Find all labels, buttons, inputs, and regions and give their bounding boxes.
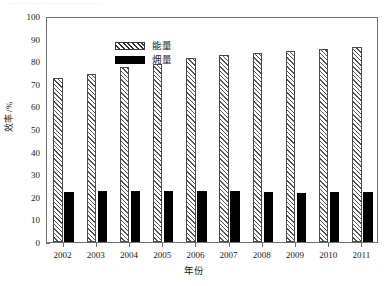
bar-㶲量-2005: [164, 191, 174, 242]
bar-㶲量-2009: [297, 193, 307, 242]
cropped-caption-remnant: ———————————————: [6, 0, 156, 7]
bar-能量-2004: [120, 67, 130, 242]
bar-㶲量-2011: [363, 192, 373, 242]
y-axis-tick-label: 20: [0, 193, 40, 202]
chart-figure: ——————————————— 0102030405060708090100 效…: [0, 0, 388, 286]
x-axis-title: 年份: [0, 266, 388, 277]
bar-能量-2010: [319, 49, 329, 242]
y-axis-tick-mark: [46, 243, 50, 244]
x-axis-tick-label: 2011: [341, 250, 381, 260]
bar-能量-2005: [153, 64, 163, 242]
plot-area: 能量 㶲量: [46, 17, 378, 243]
y-axis-tick-label: 100: [0, 13, 40, 22]
y-axis-tick-label: 90: [0, 35, 40, 44]
legend-label-energy: 能量: [152, 41, 172, 51]
x-axis-tick-mark: [96, 243, 97, 247]
bar-㶲量-2004: [131, 191, 141, 242]
bar-能量-2006: [186, 58, 196, 242]
legend-item-energy: 能量: [115, 39, 201, 53]
solid-black-swatch-icon: [115, 56, 145, 64]
x-axis-tick-mark: [328, 243, 329, 247]
chart-legend: 能量 㶲量: [115, 39, 201, 67]
x-axis-tick-mark: [361, 243, 362, 247]
x-axis-tick-mark: [295, 243, 296, 247]
x-axis-tick-mark: [195, 243, 196, 247]
y-axis-title: 效率 /%: [4, 87, 14, 147]
y-axis-tick-label: 10: [0, 216, 40, 225]
bar-能量-2008: [253, 53, 263, 242]
y-axis-tick-label: 30: [0, 171, 40, 180]
y-axis-tick-label: 80: [0, 58, 40, 67]
bar-能量-2007: [219, 55, 229, 242]
bar-㶲量-2003: [98, 191, 108, 242]
bar-能量-2011: [352, 47, 362, 242]
legend-label-exergy: 㶲量: [152, 55, 172, 65]
bar-㶲量-2007: [230, 191, 240, 242]
bar-能量-2009: [286, 51, 296, 242]
bar-㶲量-2002: [64, 192, 74, 242]
bar-㶲量-2006: [197, 191, 207, 242]
x-axis-tick-mark: [63, 243, 64, 247]
bar-能量-2003: [87, 74, 97, 242]
bar-㶲量-2008: [264, 192, 274, 242]
y-axis-tick-label: 40: [0, 148, 40, 157]
x-axis-tick-mark: [162, 243, 163, 247]
x-axis-tick-mark: [129, 243, 130, 247]
hatched-diagonal-swatch-icon: [115, 42, 145, 50]
x-axis-tick-mark: [262, 243, 263, 247]
x-axis-tick-mark: [229, 243, 230, 247]
y-axis-tick-label: 0: [0, 239, 40, 248]
bar-㶲量-2010: [330, 192, 340, 242]
legend-item-exergy: 㶲量: [115, 53, 201, 67]
bar-能量-2002: [53, 78, 63, 242]
